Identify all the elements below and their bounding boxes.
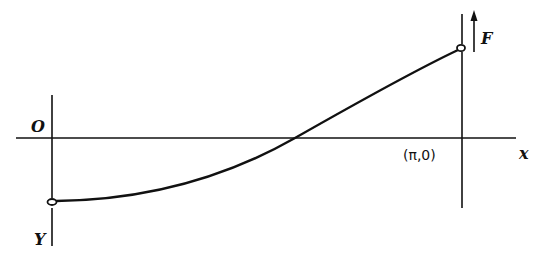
x-axis-label: x	[519, 146, 529, 162]
force-arrow-head-icon	[471, 10, 478, 21]
right-ring-icon	[457, 45, 465, 51]
left-ring-icon	[48, 199, 57, 205]
origin-label: O	[31, 119, 45, 135]
string-deflection-diagram	[0, 0, 546, 259]
y-force-label: Y	[34, 232, 45, 248]
string-curve	[56, 50, 458, 201]
end-point-label: (π,0)	[403, 148, 436, 162]
force-label: F	[481, 31, 492, 47]
